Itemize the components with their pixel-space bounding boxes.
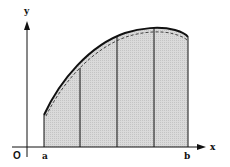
origin-label: O (13, 150, 21, 161)
x-axis-label: x (210, 142, 216, 152)
shaded-area (44, 28, 188, 147)
a-label: a (42, 151, 48, 161)
y-axis-arrow-icon (24, 21, 30, 30)
x-axis-arrow-icon (197, 144, 206, 150)
y-axis-label: y (23, 6, 30, 16)
b-label: b (184, 151, 190, 161)
area-diagram: y x O a b (0, 0, 230, 167)
